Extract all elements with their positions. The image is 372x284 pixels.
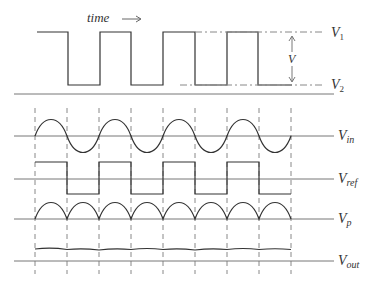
vout-waveform (14, 248, 334, 261)
vref-label: Vref (338, 171, 359, 188)
vout-label: Vout (338, 253, 360, 270)
vin-label: Vin (338, 128, 354, 145)
vin-waveform (14, 120, 334, 153)
vref-waveform (14, 162, 334, 194)
v-span-label: V (288, 52, 297, 66)
waveform-diagram: V time V1 V2 Vin Vref Vp Vo (0, 0, 372, 284)
v1-label: V1 (331, 25, 344, 42)
top-square-wave (14, 32, 334, 94)
vp-label: Vp (338, 211, 352, 228)
time-label: time (87, 10, 110, 25)
vp-waveform (14, 203, 334, 220)
time-arrow-icon (122, 16, 141, 22)
v2-label: V2 (331, 77, 344, 94)
